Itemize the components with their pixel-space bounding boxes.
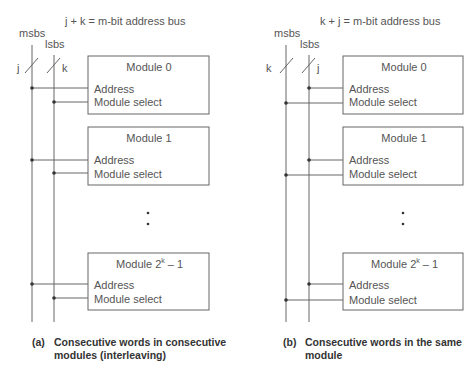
memory-interleaving-diagram: j + k = m-bit address bus msbs lsbs j k … bbox=[0, 0, 476, 375]
module-1-select-a: Module select bbox=[94, 168, 162, 180]
module-1-address-a: Address bbox=[94, 154, 135, 166]
msbs-width-a: j bbox=[16, 62, 19, 74]
module-last-title-a: Module 2k – 1 bbox=[116, 257, 183, 270]
module-last-title-b: Module 2k – 1 bbox=[371, 257, 438, 270]
module-1-title-a: Module 1 bbox=[126, 132, 171, 144]
module-1-address-b: Address bbox=[349, 154, 390, 166]
bus-title-a: j + k = m-bit address bus bbox=[64, 15, 186, 27]
module-0-select-b: Module select bbox=[349, 96, 417, 108]
ellipsis-dot bbox=[147, 223, 150, 226]
caption-tag-a: (a) bbox=[32, 336, 45, 348]
module-1-select-b: Module select bbox=[349, 168, 417, 180]
lsbs-label-b: lsbs bbox=[300, 38, 320, 50]
lsbs-width-a: k bbox=[62, 62, 68, 74]
module-0-title-b: Module 0 bbox=[381, 61, 426, 73]
module-1-title-b: Module 1 bbox=[381, 132, 426, 144]
caption-line2-b: module bbox=[305, 349, 342, 361]
module-last-address-a: Address bbox=[94, 279, 135, 291]
msbs-label-b: msbs bbox=[274, 27, 301, 39]
module-last-address-b: Address bbox=[349, 279, 390, 291]
caption-tag-b: (b) bbox=[283, 336, 296, 348]
module-0-address-a: Address bbox=[94, 83, 135, 95]
ellipsis-dot bbox=[402, 223, 405, 226]
ellipsis-dot bbox=[402, 212, 405, 215]
ellipsis-dot bbox=[147, 212, 150, 215]
module-0-address-b: Address bbox=[349, 83, 390, 95]
caption-line1-a: Consecutive words in consecutive bbox=[54, 336, 226, 348]
panel-a-bus-lines bbox=[25, 45, 60, 322]
caption-line2-a: modules (interleaving) bbox=[54, 349, 166, 361]
module-last-select-b: Module select bbox=[349, 294, 417, 306]
junction-dots bbox=[30, 86, 404, 302]
caption-line1-b: Consecutive words in the same bbox=[305, 336, 462, 348]
lsbs-width-b: j bbox=[316, 62, 319, 74]
module-last-select-a: Module select bbox=[94, 293, 162, 305]
module-0-select-a: Module select bbox=[94, 96, 162, 108]
bus-title-b: k + j = m-bit address bus bbox=[320, 15, 441, 27]
lsbs-label-a: lsbs bbox=[45, 38, 65, 50]
module-0-title-a: Module 0 bbox=[126, 61, 171, 73]
msbs-width-b: k bbox=[266, 62, 272, 74]
msbs-label-a: msbs bbox=[19, 27, 46, 39]
